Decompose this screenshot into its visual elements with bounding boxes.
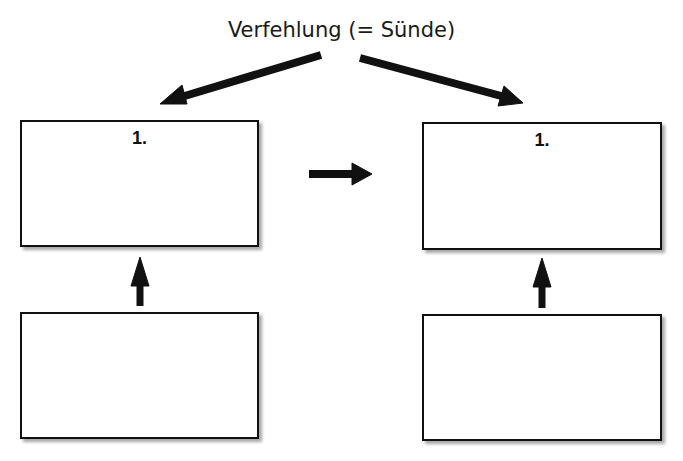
box-bottom-right xyxy=(422,314,662,441)
box-top-left: 1. xyxy=(20,120,259,247)
box-number: 1. xyxy=(22,128,257,149)
arrow-right xyxy=(309,163,372,185)
box-bottom-left xyxy=(20,312,259,439)
arrow-to-right-box xyxy=(360,58,523,106)
arrow-to-left-box xyxy=(160,55,321,104)
arrow-up-left xyxy=(131,257,149,306)
arrow-up-right xyxy=(533,258,551,308)
box-number: 1. xyxy=(424,130,660,151)
box-top-right: 1. xyxy=(422,122,662,250)
